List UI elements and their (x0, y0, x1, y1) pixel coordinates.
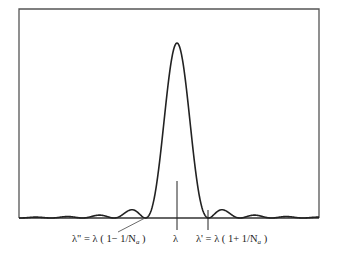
frame (19, 9, 319, 218)
left-pointer (118, 218, 145, 232)
intensity-curve (19, 43, 319, 218)
diagram-svg: λ" = λ ( 1− 1/Na ) λ λ' = λ ( 1+ 1/Na ) (0, 0, 343, 254)
label-lambda-minus: λ" = λ ( 1− 1/Na ) (72, 233, 146, 246)
label-lambda-plus: λ' = λ ( 1+ 1/Na ) (196, 233, 268, 246)
label-lambda-center: λ (173, 233, 179, 244)
diagram: λ" = λ ( 1− 1/Na ) λ λ' = λ ( 1+ 1/Na ) (0, 0, 343, 254)
